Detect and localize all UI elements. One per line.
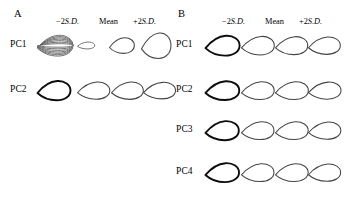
leaf-outline-plus2sd bbox=[305, 113, 344, 147]
superimposed-outline-bold bbox=[34, 73, 74, 107]
leaf-outline-minus2sd bbox=[241, 122, 273, 140]
shape-strip bbox=[202, 73, 338, 107]
superimposed-outline-bold bbox=[205, 81, 239, 100]
shape-strip bbox=[202, 113, 338, 147]
shape-strip bbox=[34, 28, 172, 62]
shape-strip bbox=[202, 155, 338, 189]
shape-strip bbox=[34, 73, 172, 107]
pc-row-label: PC2 bbox=[176, 84, 193, 95]
leaf-outline-plus2sd bbox=[305, 73, 344, 107]
leaf-outline-mean bbox=[276, 164, 309, 182]
superimposed-outline-bold bbox=[205, 163, 239, 182]
leaf-outline-plus2sd bbox=[143, 82, 175, 99]
pc-row-label: PC1 bbox=[10, 39, 27, 50]
column-header-row-b: −2S.D. Mean +2S.D. bbox=[222, 16, 334, 28]
leaf-outline-mean bbox=[276, 122, 309, 140]
pc-row-b-pc1: PC1 bbox=[172, 28, 338, 62]
superimposed-outline-bold bbox=[205, 36, 239, 56]
superimposed-outline-bold bbox=[202, 28, 243, 62]
leaf-outline-plus2sd bbox=[305, 155, 344, 189]
pc-row-b-pc4: PC4 bbox=[172, 155, 338, 189]
column-header-row-a: −2S.D. Mean +2S.D. bbox=[56, 16, 168, 28]
column-header-mean-text: Mean bbox=[265, 17, 284, 26]
panel-b: B −2S.D. Mean +2S.D. PC1 PC2 bbox=[172, 0, 338, 197]
column-header-mean-text: Mean bbox=[99, 17, 118, 26]
leaf-outline-minus2sd bbox=[241, 36, 274, 55]
leaf-outline-plus2sd bbox=[309, 37, 341, 54]
pc-row-a-pc2: PC2 bbox=[0, 73, 172, 107]
column-header-minus-2sd-text: −2S.D. bbox=[56, 17, 79, 26]
leaf-outline-plus2sd bbox=[305, 28, 343, 62]
leaf-outline-mean bbox=[106, 28, 137, 62]
column-header-mean: Mean bbox=[99, 16, 118, 28]
pc-row-b-pc2: PC2 bbox=[172, 73, 338, 107]
column-header-mean: Mean bbox=[265, 16, 284, 28]
panel-letter-a: A bbox=[14, 9, 22, 20]
leaf-outline-minus2sd bbox=[77, 82, 109, 99]
panel-letter-b: B bbox=[178, 9, 185, 20]
leaf-outline-plus2sd bbox=[141, 33, 170, 58]
column-header-minus-2sd: −2S.D. bbox=[56, 16, 79, 28]
leaf-outline-mean bbox=[275, 82, 308, 100]
column-header-plus-2sd: +2S.D. bbox=[133, 16, 156, 28]
leaf-outline-minus2sd bbox=[74, 28, 98, 62]
leaf-outline-minus2sd bbox=[77, 42, 94, 49]
column-header-minus-2sd-text: −2S.D. bbox=[222, 17, 245, 26]
column-header-minus-2sd: −2S.D. bbox=[222, 16, 245, 28]
leaf-outline-mean bbox=[112, 82, 144, 99]
column-header-plus-2sd: +2S.D. bbox=[299, 16, 322, 28]
superimposed-outline-bold bbox=[202, 155, 242, 189]
leaf-outline-mean bbox=[275, 37, 307, 55]
column-header-plus-2sd-text: +2S.D. bbox=[133, 17, 156, 26]
pc-row-label: PC2 bbox=[10, 84, 27, 95]
leaf-outline-plus2sd bbox=[308, 122, 340, 139]
superimposed-outline-fan bbox=[34, 28, 78, 62]
leaf-outline-mean bbox=[109, 38, 134, 54]
shape-strip bbox=[202, 28, 338, 62]
superimposed-outline-bold bbox=[37, 81, 70, 100]
superimposed-outline-bold bbox=[205, 121, 238, 140]
pc-row-label: PC3 bbox=[176, 124, 193, 135]
leaf-outline-plus2sd bbox=[138, 28, 174, 62]
panel-a: A −2S.D. Mean +2S.D. PC1 PC2 bbox=[0, 0, 172, 197]
leaf-outline-plus2sd bbox=[308, 82, 340, 99]
superimposed-outline-bold bbox=[202, 73, 242, 107]
pc-row-label: PC1 bbox=[176, 39, 193, 50]
column-header-plus-2sd-text: +2S.D. bbox=[299, 17, 322, 26]
pc-row-b-pc3: PC3 bbox=[172, 113, 338, 147]
leaf-outline-plus2sd bbox=[308, 164, 340, 181]
leaf-outline-minus2sd bbox=[241, 164, 273, 182]
pc-row-label: PC4 bbox=[176, 166, 193, 177]
pc-row-a-pc1: PC1 bbox=[0, 28, 172, 62]
leaf-outline-minus2sd bbox=[242, 82, 275, 100]
superimposed-outline-bold bbox=[202, 113, 242, 147]
